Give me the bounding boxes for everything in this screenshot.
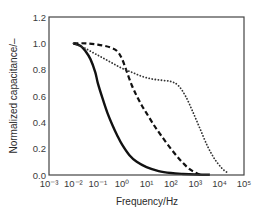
x-tick-label: 10² bbox=[164, 178, 178, 189]
y-tick-label: 0.8 bbox=[33, 64, 46, 75]
y-tick-label: 1.2 bbox=[33, 12, 46, 23]
series-dotted-line bbox=[73, 43, 227, 172]
x-tick-label: 10¹ bbox=[140, 178, 154, 189]
plot-frame bbox=[49, 17, 244, 175]
x-axis-ticks: 10⁻³10⁻²10⁻¹10⁰10¹10²10³10⁴10⁵ bbox=[40, 178, 252, 189]
x-tick-label: 10⁻² bbox=[64, 178, 83, 189]
x-tick-label: 10⁰ bbox=[115, 178, 130, 189]
series-layer bbox=[73, 43, 227, 175]
y-tick-label: 1.0 bbox=[33, 38, 46, 49]
y-tick-label: 0.2 bbox=[33, 143, 46, 154]
chart: 0.00.20.40.60.81.01.2 10⁻³10⁻²10⁻¹10⁰10¹… bbox=[0, 0, 260, 215]
y-tick-label: 0.4 bbox=[33, 117, 46, 128]
x-tick-label: 10⁵ bbox=[237, 178, 252, 189]
x-axis-title: Frequency/Hz bbox=[116, 196, 178, 207]
y-axis-title: Normalized capacitance/– bbox=[8, 38, 19, 153]
x-tick-label: 10⁴ bbox=[212, 178, 227, 189]
x-tick-label: 10³ bbox=[188, 178, 202, 189]
y-tick-label: 0.6 bbox=[33, 91, 46, 102]
x-tick-label: 10⁻¹ bbox=[88, 178, 107, 189]
x-tick-label: 10⁻³ bbox=[40, 178, 59, 189]
series-solid-line bbox=[73, 43, 210, 174]
y-axis-ticks: 0.00.20.40.60.81.01.2 bbox=[33, 12, 46, 181]
